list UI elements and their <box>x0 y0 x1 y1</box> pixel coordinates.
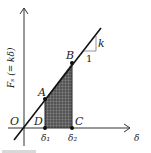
label-D: D <box>33 115 43 128</box>
tick-delta2: δ₂ <box>68 133 77 143</box>
label-origin: O <box>10 115 19 128</box>
x-axis-label: δ <box>134 133 139 143</box>
label-A: A <box>37 86 46 99</box>
label-run: 1 <box>86 53 92 64</box>
point-C <box>70 126 74 130</box>
spring-force-diagram: A B C D O k 1 δ₁ δ₂ δ Fₛ (= kδ) <box>0 0 151 153</box>
label-k: k <box>98 37 105 50</box>
label-C: C <box>75 115 84 128</box>
point-D <box>43 126 47 130</box>
tick-delta1: δ₁ <box>41 133 50 143</box>
clipped-caption <box>2 150 36 153</box>
y-axis-label: Fₛ (= kδ) <box>6 47 16 89</box>
label-B: B <box>65 49 74 62</box>
